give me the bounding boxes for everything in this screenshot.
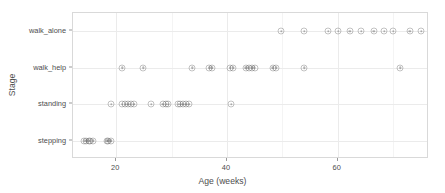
data-point-center (303, 30, 305, 32)
data-point (370, 28, 377, 35)
data-point-center (142, 67, 144, 69)
data-point (390, 28, 397, 35)
x-axis-tickmark (337, 158, 338, 161)
data-point (406, 28, 413, 35)
data-point (251, 64, 258, 71)
x-axis-tick-20: 20 (111, 163, 119, 172)
data-point (397, 64, 404, 71)
data-point (335, 28, 342, 35)
data-point-center (110, 103, 112, 105)
data-point (230, 64, 237, 71)
data-point-center (392, 30, 394, 32)
data-point (346, 28, 353, 35)
data-point-center (150, 103, 152, 105)
data-point-center (303, 67, 305, 69)
data-point (189, 64, 196, 71)
data-point-center (211, 67, 213, 69)
data-point-center (360, 30, 362, 32)
data-point (418, 28, 425, 35)
x-axis-tick-40: 40 (222, 163, 230, 172)
y-axis-tick-standing: standing (38, 99, 66, 108)
gridline-minor-x (282, 13, 283, 157)
data-point-center (399, 67, 401, 69)
data-point (228, 101, 235, 108)
data-point-center (383, 30, 385, 32)
data-point (119, 64, 126, 71)
data-point-center (167, 103, 169, 105)
data-point (301, 28, 308, 35)
gridline-major-y (73, 141, 427, 142)
data-point (107, 137, 114, 144)
data-point-center (121, 67, 123, 69)
data-point (185, 101, 192, 108)
gridline-major-x (227, 13, 228, 157)
data-point-center (92, 140, 94, 142)
data-point (140, 64, 147, 71)
data-point-center (275, 67, 277, 69)
y-axis-tick-stepping: stepping (38, 135, 66, 144)
x-axis-tickmark (115, 158, 116, 161)
plot-panel (72, 12, 428, 158)
data-point (130, 101, 137, 108)
gridline-major-x (116, 13, 117, 157)
y-axis-title: Stage (7, 74, 17, 96)
data-point (358, 28, 365, 35)
data-point (301, 64, 308, 71)
data-point (108, 101, 115, 108)
data-point-center (230, 103, 232, 105)
y-axis-title-wrap: Stage (10, 0, 24, 170)
data-point (165, 101, 172, 108)
data-point-center (327, 30, 329, 32)
data-point-center (109, 140, 111, 142)
data-point-center (408, 30, 410, 32)
y-axis-tick-walk_help: walk_help (33, 62, 66, 71)
data-point-center (372, 30, 374, 32)
x-axis-title: Age (weeks) (0, 176, 445, 186)
data-point-center (280, 30, 282, 32)
data-point (325, 28, 332, 35)
x-axis-tickmark (226, 158, 227, 161)
data-point (381, 28, 388, 35)
x-axis-tick-60: 60 (333, 163, 341, 172)
data-point-center (420, 30, 422, 32)
data-point-center (232, 67, 234, 69)
data-point-center (191, 67, 193, 69)
data-point (278, 28, 285, 35)
data-point-center (133, 103, 135, 105)
data-point-center (349, 30, 351, 32)
data-point (273, 64, 280, 71)
data-point (148, 101, 155, 108)
scatter-chart: Stage steppingstandingwalk_helpwalk_alon… (0, 0, 445, 193)
data-point-center (337, 30, 339, 32)
data-point-center (253, 67, 255, 69)
y-axis-tick-walk_alone: walk_alone (29, 26, 66, 35)
data-point-center (188, 103, 190, 105)
gridline-minor-x (172, 13, 173, 157)
data-point (208, 64, 215, 71)
data-point (90, 137, 97, 144)
